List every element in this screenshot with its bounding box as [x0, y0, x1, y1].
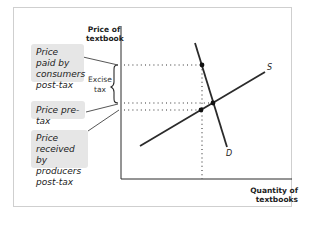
demand-curve: [195, 43, 227, 147]
excise-tax-label: Excise tax: [88, 75, 112, 95]
consumers-leader: [83, 57, 118, 65]
callout-price-paid-by-consumers: Price paid by consumers post-tax: [31, 44, 84, 82]
callout-producers-line-3: post-tax: [36, 177, 83, 188]
excise-tax-label-line-1: Excise: [88, 75, 112, 85]
x-axis-label: Quantity of textbooks: [218, 186, 298, 204]
callout-pretax-line-1: Price pre-tax: [36, 105, 80, 127]
equilibrium-point: [211, 101, 216, 106]
callout-consumers-line-1: Price paid by: [36, 47, 79, 69]
consumer-price-point: [200, 63, 205, 68]
excise-tax-label-line-2: tax: [88, 85, 112, 95]
producers-leader: [88, 110, 119, 131]
producer-price-point: [199, 108, 204, 113]
excise-tax-brace: [111, 65, 118, 103]
callout-producers-line-2: by producers: [36, 155, 83, 177]
callout-price-pre-tax: Price pre-tax: [31, 101, 85, 119]
y-axis-label-line-1: Price of: [86, 25, 122, 34]
callout-price-received-by-producers: Price received by producers post-tax: [31, 130, 88, 168]
callout-consumers-line-3: post-tax: [36, 80, 79, 91]
callout-producers-line-1: Price received: [36, 133, 83, 155]
y-axis-label-line-2: textbook: [86, 34, 122, 43]
pretax-leader: [86, 104, 118, 112]
y-axis-label: Price of textbook: [86, 25, 122, 43]
supply-label: S: [267, 63, 272, 72]
demand-label: D: [226, 149, 232, 158]
callout-consumers-line-2: consumers: [36, 69, 79, 80]
